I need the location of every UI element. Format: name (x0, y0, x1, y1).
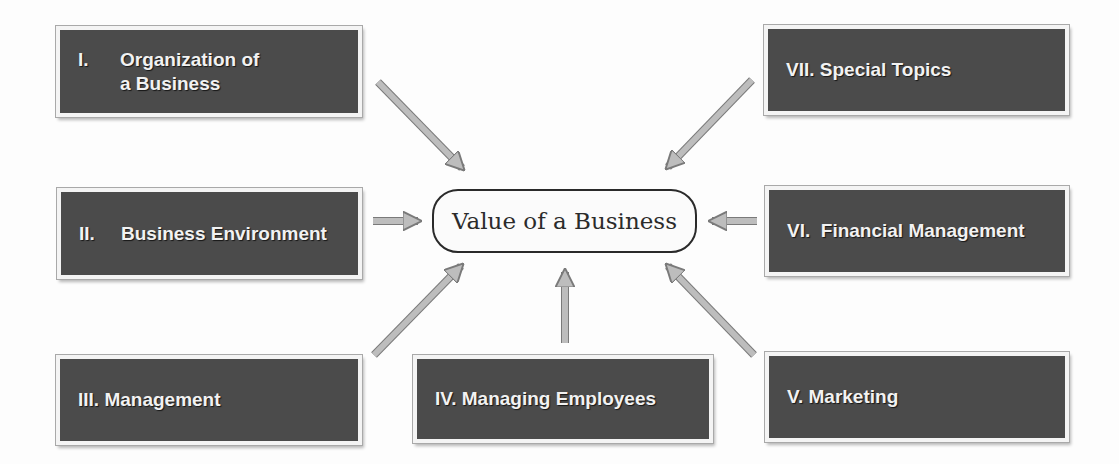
box-management: III. Management (56, 355, 362, 445)
box-numeral: V. (787, 385, 803, 409)
box-numeral: VI. (787, 219, 810, 243)
box-business-environment: II. Business Environment (57, 188, 362, 279)
center-node-label: Value of a Business (452, 208, 677, 234)
box-title: Marketing (809, 385, 899, 409)
box-title: Financial Management (821, 219, 1025, 243)
box-financial-management: VI. Financial Management (765, 186, 1069, 276)
box-marketing: V. Marketing (765, 352, 1069, 442)
box-numeral: I. (78, 48, 120, 96)
box-title: Management (104, 388, 220, 412)
box-title: Special Topics (820, 58, 952, 82)
box-title: Business Environment (121, 222, 327, 246)
box-managing-employees: IV. Managing Employees (413, 355, 713, 443)
box-numeral: VII. (786, 58, 815, 82)
box-numeral: III. (78, 388, 99, 412)
arrow-from-organization (378, 82, 462, 168)
box-special-topics: VII. Special Topics (764, 25, 1069, 115)
box-numeral: II. (79, 222, 121, 246)
arrow-from-marketing (668, 266, 754, 355)
center-node-value-of-business: Value of a Business (432, 189, 697, 253)
box-title: Managing Employees (462, 387, 656, 411)
arrow-from-special-topics (668, 80, 752, 167)
box-numeral: IV. (435, 387, 457, 411)
box-title-line1: Organization of (120, 48, 259, 72)
box-title-line2: a Business (120, 72, 259, 96)
arrow-from-management (374, 266, 461, 355)
box-organization-of-business: I. Organization of a Business (56, 26, 362, 117)
